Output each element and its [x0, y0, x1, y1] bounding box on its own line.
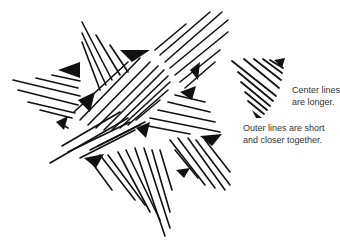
nw-arm-strokes [82, 22, 128, 90]
example-triangle [232, 59, 283, 114]
outer-lines-annotation: Outer lines are short and closer togethe… [243, 122, 325, 146]
outer-lines-text-1: Outer lines are short [243, 122, 325, 134]
w-arm-strokes [13, 75, 80, 128]
center-lines-text-1: Center lines [292, 84, 340, 96]
center-lines-annotation: Center lines are longer. [292, 84, 340, 108]
ne-arm-strokes [155, 12, 228, 88]
se-arm-strokes [170, 138, 230, 190]
s-arm-strokes [90, 148, 172, 236]
outer-lines-text-2: and closer together. [243, 134, 325, 146]
center-lines-text-2: are longer. [292, 96, 340, 108]
